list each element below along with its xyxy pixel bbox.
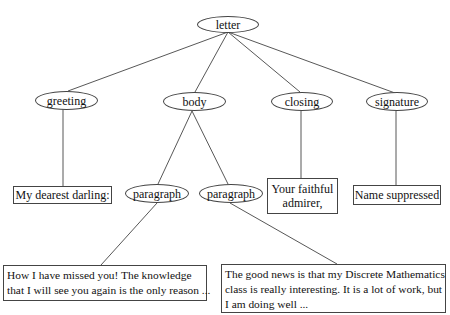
leaf-paragraph-2-text: The good news is that my Discrete Mathem… [221,264,446,313]
node-signature: signature [366,92,428,111]
leaf-paragraph-2-text-line-1: The good news is that my Discrete Mathem… [225,267,442,282]
leaf-paragraph-2-text-line-3: I am doing well ... [225,297,442,312]
leaf-closing-text: Your faithful admirer, [267,178,338,214]
leaf-greeting-text-label: My dearest darling: [16,188,110,202]
leaf-closing-text-line-1: Your faithful [272,182,334,196]
node-paragraph-1: paragraph [125,184,189,203]
edge-body-paragraph2 [192,111,228,184]
edge-letter-closing [228,32,300,92]
leaf-paragraph-1-text: How I have missed you! The knowledge tha… [3,265,207,301]
node-body: body [163,92,226,111]
node-paragraph-2-label: paragraph [207,188,255,200]
leaf-closing-text-line-2: admirer, [283,196,323,210]
node-signature-label: signature [375,96,419,108]
edge-letter-signature [228,32,395,93]
leaf-greeting-text: My dearest darling: [13,186,112,204]
node-greeting-label: greeting [47,95,86,107]
node-closing: closing [271,92,333,111]
edge-letter-greeting [68,32,228,91]
node-letter-label: letter [216,19,241,31]
edge-body-paragraph1 [158,111,192,184]
leaf-paragraph-1-text-line-1: How I have missed you! The knowledge [7,268,203,283]
node-paragraph-1-label: paragraph [133,188,181,200]
node-letter: letter [197,16,259,33]
leaf-paragraph-1-text-line-2: that I will see you again is the only re… [7,283,203,298]
node-closing-label: closing [285,96,320,108]
node-paragraph-2: paragraph [199,184,263,203]
edge-paragraph1-text [101,203,157,265]
letter-parse-tree-diagram: letter greeting body closing signature p… [0,0,450,315]
leaf-signature-text: Name suppressed [353,185,441,205]
leaf-signature-text-label: Name suppressed [355,188,439,202]
node-body-label: body [183,96,207,108]
node-greeting: greeting [35,91,98,110]
edge-letter-body [195,32,228,92]
leaf-paragraph-2-text-line-2: class is really interesting. It is a lot… [225,282,442,297]
